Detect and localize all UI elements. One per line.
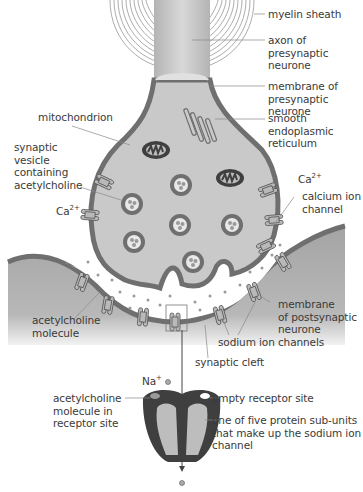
label-ach-molecule: acetylcholine molecule	[32, 314, 100, 339]
label-axon: axon of presynaptic neurone	[268, 34, 363, 72]
sodium-channel-closeup	[143, 390, 220, 462]
label-mitochondrion: mitochondrion	[38, 111, 113, 124]
label-ca-right: Ca2+	[298, 170, 322, 185]
mitochondrion-1	[142, 141, 170, 159]
label-subunit: one of five protein sub-units that make …	[212, 414, 361, 452]
label-calcium-channel: calcium ion channel	[302, 190, 361, 215]
sodium-ion	[166, 380, 171, 385]
label-synaptic-cleft: synaptic cleft	[195, 356, 264, 369]
label-ach-in-site: acetylcholine molecule in receptor site	[53, 392, 121, 430]
label-synaptic-vesicle: synaptic vesicle containing acetylcholin…	[14, 141, 82, 191]
label-ca-left: Ca2+	[56, 202, 80, 217]
label-na: Na+	[142, 372, 162, 387]
label-myelin-sheath: myelin sheath	[268, 8, 341, 21]
mitochondrion-2	[216, 169, 244, 187]
empty-receptor-site	[200, 393, 210, 399]
label-sodium-channels: sodium ion channels	[218, 336, 324, 349]
label-postsynaptic-membrane: membrane of postsynaptic neurone	[278, 298, 357, 336]
label-ser: smooth endoplasmic reticulum	[268, 112, 363, 150]
label-empty-site: empty receptor site	[212, 392, 314, 405]
